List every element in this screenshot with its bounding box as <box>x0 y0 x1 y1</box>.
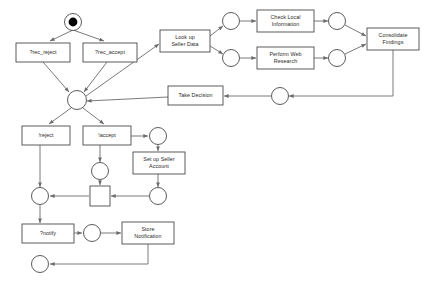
place-node[interactable] <box>150 128 167 145</box>
arc <box>87 97 168 103</box>
arc <box>43 62 70 93</box>
transition-node[interactable]: Take Decision <box>168 86 223 105</box>
place-node[interactable] <box>329 13 346 30</box>
place-node[interactable] <box>65 14 82 31</box>
transition-rect[interactable] <box>90 186 110 206</box>
arrowhead-icon <box>98 157 102 162</box>
transition-node[interactable]: !accept <box>83 126 131 145</box>
place-circle[interactable] <box>150 188 167 205</box>
arc <box>314 56 328 60</box>
transition-node[interactable]: Set up SellerAccount <box>133 152 185 174</box>
arrowhead-icon <box>99 38 105 43</box>
arc <box>98 145 102 162</box>
place-node[interactable] <box>329 50 346 67</box>
transition-label: Consolidate <box>378 32 407 38</box>
petri-net-diagram: ?rec_reject?rec_acceptLook upSeller Data… <box>0 0 429 283</box>
transition-node[interactable]: Look upSeller Data <box>160 30 210 52</box>
arc <box>224 94 271 98</box>
place-node[interactable] <box>32 256 49 273</box>
arc <box>210 46 224 56</box>
transition-node[interactable]: ?rec_accept <box>83 43 137 62</box>
place-circle[interactable] <box>32 188 49 205</box>
place-circle[interactable] <box>68 91 87 110</box>
arc <box>50 194 89 198</box>
arc-line <box>73 30 104 41</box>
arrowhead-icon <box>224 94 229 98</box>
arrowhead-icon <box>143 134 148 138</box>
arc <box>240 19 256 23</box>
place-circle[interactable] <box>329 13 346 30</box>
arc <box>48 108 71 126</box>
place-node[interactable] <box>32 188 49 205</box>
arc <box>74 231 82 235</box>
arc <box>49 30 73 43</box>
transition-node[interactable] <box>90 186 110 206</box>
place-circle[interactable] <box>329 50 346 67</box>
transition-label: Check Local <box>270 14 300 20</box>
place-circle[interactable] <box>32 256 49 273</box>
arc <box>131 134 148 138</box>
transition-label: Store <box>141 226 154 232</box>
arrowhead-icon <box>111 194 116 198</box>
transition-label: ?notify <box>40 230 56 236</box>
arc <box>156 174 160 187</box>
place-node[interactable] <box>92 163 109 180</box>
arc <box>38 145 42 187</box>
arc <box>156 145 160 151</box>
arc <box>111 194 149 198</box>
place-circle[interactable] <box>84 225 101 242</box>
petri-net-canvas: ?rec_reject?rec_acceptLook upSeller Data… <box>0 0 429 283</box>
transition-label: !reject <box>38 132 53 138</box>
transition-label: Findings <box>383 39 404 45</box>
transition-label: Notification <box>134 233 161 239</box>
arc-line <box>87 97 168 101</box>
place-circle[interactable] <box>223 50 240 67</box>
transition-label: ?rec_reject <box>29 49 57 55</box>
arc <box>314 19 328 23</box>
arrowhead-icon <box>98 180 102 185</box>
arrowhead-icon <box>156 146 160 151</box>
arc <box>240 56 256 60</box>
arc-line <box>43 62 69 92</box>
transition-node[interactable]: ConsolidateFindings <box>367 28 419 50</box>
transition-node[interactable]: StoreNotification <box>122 222 174 244</box>
place-node[interactable] <box>84 225 101 242</box>
token-marker <box>69 18 78 27</box>
arrowhead-icon <box>77 231 82 235</box>
arrowhead-icon <box>323 56 328 60</box>
place-node[interactable] <box>272 88 289 105</box>
place-node[interactable] <box>150 188 167 205</box>
arrowhead-icon <box>49 37 55 42</box>
transition-label: Take Decision <box>178 92 212 98</box>
transition-node[interactable]: ?rec_reject <box>16 43 70 62</box>
arrowhead-icon <box>361 32 367 38</box>
place-node[interactable] <box>223 13 240 30</box>
arc <box>345 42 367 54</box>
place-circle[interactable] <box>92 163 109 180</box>
arc <box>73 30 105 43</box>
transition-label: Seller Data <box>171 41 198 47</box>
place-node[interactable] <box>68 91 87 110</box>
arrowhead-icon <box>87 99 92 103</box>
arc <box>38 205 42 223</box>
arc <box>210 25 224 36</box>
arrowhead-icon <box>50 262 55 266</box>
arrowhead-icon <box>38 218 42 223</box>
arrowhead-icon <box>361 42 367 47</box>
transition-node[interactable]: Check LocalInformation <box>257 10 314 32</box>
place-circle[interactable] <box>150 128 167 145</box>
arrowhead-icon <box>156 182 160 187</box>
transition-node[interactable]: ?notify <box>22 224 74 243</box>
transition-label: Information <box>272 21 300 27</box>
place-circle[interactable] <box>272 88 289 105</box>
arc <box>101 231 121 235</box>
arrowhead-icon <box>50 194 55 198</box>
arc <box>83 108 105 126</box>
place-node[interactable] <box>223 50 240 67</box>
place-circle[interactable] <box>223 13 240 30</box>
transition-node[interactable]: !reject <box>22 126 70 145</box>
arrowhead-icon <box>323 19 328 23</box>
arc-line <box>50 244 148 264</box>
arrowhead-icon <box>38 182 42 187</box>
transition-node[interactable]: Perform WebResearch <box>257 47 314 69</box>
